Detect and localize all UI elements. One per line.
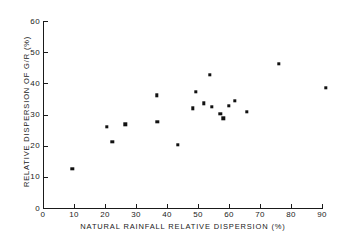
data-point: [324, 86, 327, 89]
x-tick-label-50: 50: [189, 210, 207, 219]
x-tick-60: [229, 204, 230, 208]
data-point: [202, 102, 205, 105]
x-axis-title: NATURAL RAINFALL RELATIVE DISPERSION (%): [43, 222, 323, 231]
y-tick-20: [44, 146, 48, 147]
data-point: [277, 62, 280, 65]
data-point: [208, 73, 211, 76]
x-tick-90: [322, 204, 323, 208]
data-point: [123, 122, 126, 125]
data-point: [219, 112, 222, 115]
y-tick-30: [44, 115, 48, 116]
x-axis-line: [43, 208, 323, 209]
x-tick-70: [260, 204, 261, 208]
x-tick-label-60: 60: [220, 210, 238, 219]
data-point: [233, 99, 236, 102]
data-point: [194, 90, 197, 93]
data-point: [155, 94, 158, 97]
y-tick-0: [44, 208, 48, 209]
scatter-plot-figure: 0102030405060 0102030405060708090 RELATI…: [0, 0, 347, 240]
data-point: [176, 143, 179, 146]
data-point: [105, 125, 108, 128]
x-tick-label-90: 90: [313, 210, 331, 219]
x-tick-10: [74, 204, 75, 208]
data-points-layer: [0, 0, 347, 240]
data-point: [221, 117, 224, 120]
x-tick-80: [291, 204, 292, 208]
data-point: [70, 167, 73, 170]
x-tick-label-80: 80: [282, 210, 300, 219]
x-tick-label-40: 40: [158, 210, 176, 219]
data-point: [210, 105, 213, 108]
x-tick-label-10: 10: [65, 210, 83, 219]
x-tick-label-30: 30: [127, 210, 145, 219]
x-tick-label-20: 20: [96, 210, 114, 219]
x-tick-20: [105, 204, 106, 208]
x-tick-50: [198, 204, 199, 208]
x-tick-30: [136, 204, 137, 208]
x-tick-label-0: 0: [34, 210, 52, 219]
y-tick-60: [44, 21, 48, 22]
y-tick-50: [44, 52, 48, 53]
data-point: [245, 110, 248, 113]
x-tick-label-70: 70: [251, 210, 269, 219]
x-tick-40: [167, 204, 168, 208]
data-point: [110, 140, 113, 143]
data-point: [191, 107, 194, 110]
data-point: [227, 104, 230, 107]
data-point: [156, 120, 159, 123]
y-axis-title: RELATIVE DISPERSION OF G/R (%): [22, 12, 31, 212]
x-tick-0: [43, 204, 44, 208]
y-tick-40: [44, 83, 48, 84]
y-tick-10: [44, 177, 48, 178]
